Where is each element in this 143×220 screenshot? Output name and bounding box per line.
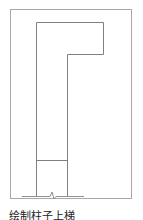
column-outline [37,23,104,197]
outer-frame [11,10,132,199]
column-drawing [0,0,143,220]
ground-break-line [22,192,84,199]
figure-caption: 绘制柱子上梯 [9,211,75,220]
